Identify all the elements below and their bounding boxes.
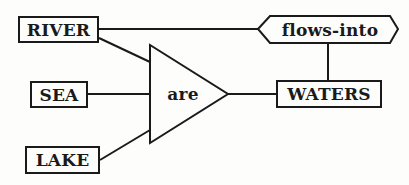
node-sea[interactable]: SEA [30, 81, 88, 108]
node-flows-into-label: flows-into [282, 20, 378, 40]
edge-river-are [99, 38, 150, 62]
node-are-label: are [167, 84, 198, 104]
node-are[interactable]: are [158, 82, 208, 106]
edge-lake-are [100, 130, 150, 160]
node-lake[interactable]: LAKE [25, 146, 100, 174]
node-waters[interactable]: WATERS [276, 80, 382, 108]
node-sea-label: SEA [39, 85, 78, 105]
node-river-label: RIVER [27, 20, 90, 40]
node-lake-label: LAKE [36, 150, 90, 170]
node-waters-label: WATERS [287, 84, 370, 104]
node-river[interactable]: RIVER [18, 16, 99, 43]
node-flows-into[interactable]: flows-into [268, 17, 392, 42]
